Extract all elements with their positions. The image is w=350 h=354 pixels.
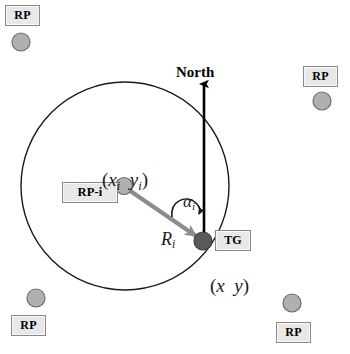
bearing-angle-label: αi: [166, 172, 195, 232]
target-coord-gap: [225, 275, 235, 296]
rp-label-bottom-right: RP: [276, 322, 311, 343]
coord-gap: [120, 169, 130, 190]
figure-canvas: RP RP RP RP RP-i TG North (xi yi) (x y) …: [0, 0, 350, 354]
rp-label-top-left: RP: [5, 5, 40, 26]
rp-box-bottom-right[interactable]: RP: [276, 322, 311, 343]
target-coordinates-label: (x y): [191, 253, 249, 319]
rp-label-bottom-left: RP: [11, 315, 46, 336]
range-subscript: i: [172, 237, 175, 251]
rp-marker-bottom-left[interactable]: [27, 289, 45, 307]
rp-box-top-left[interactable]: RP: [5, 5, 40, 26]
coord-y-symbol: y: [130, 169, 138, 190]
coord-close-paren: ): [142, 169, 148, 190]
target-coord-close-paren: ): [243, 275, 249, 296]
rp-i-coordinates-label: (xi yi): [83, 147, 148, 216]
target-coord-y-symbol: y: [234, 275, 242, 296]
tg-label-group: TG: [215, 230, 251, 251]
north-label: North: [176, 64, 214, 81]
target-coord-x-symbol: x: [216, 275, 224, 296]
bearing-subscript: i: [192, 200, 195, 212]
rp-label-top-right: RP: [303, 66, 338, 87]
rp-marker-top-left[interactable]: [12, 33, 30, 51]
bearing-symbol: α: [183, 192, 192, 211]
tg-box[interactable]: TG: [215, 230, 251, 251]
coord-x-symbol: x: [108, 169, 116, 190]
rp-box-top-right[interactable]: RP: [303, 66, 338, 87]
rp-marker-top-right[interactable]: [313, 92, 331, 110]
rp-box-bottom-left[interactable]: RP: [11, 315, 46, 336]
rp-marker-bottom-right[interactable]: [283, 294, 301, 312]
